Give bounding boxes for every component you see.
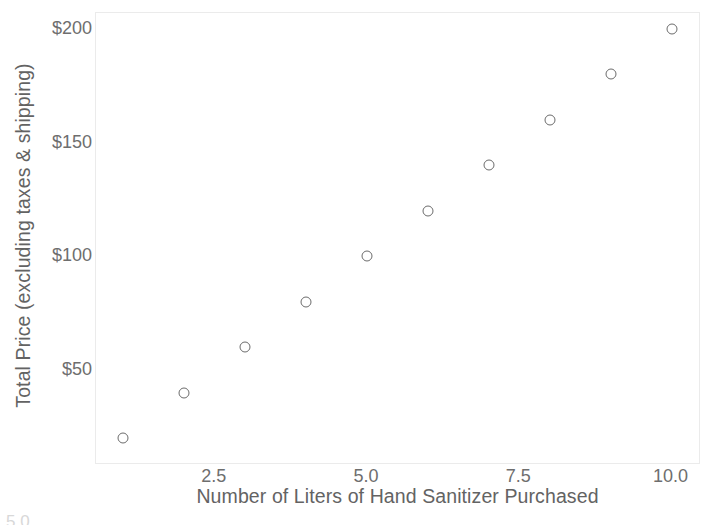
- x-tick-label: 10.0: [653, 466, 688, 487]
- clipped-text-artifact: 5.0: [6, 512, 30, 525]
- y-tick-label: $150: [0, 131, 92, 152]
- data-point: [483, 160, 494, 171]
- x-axis-label: Number of Liters of Hand Sanitizer Purch…: [95, 485, 700, 508]
- data-point: [240, 342, 251, 353]
- data-point: [118, 433, 129, 444]
- data-point: [605, 69, 616, 80]
- y-axis-tick-labels: $50$100$150$200: [0, 0, 92, 525]
- data-point: [301, 296, 312, 307]
- data-point: [362, 251, 373, 262]
- y-tick-label: $200: [0, 17, 92, 38]
- data-point: [666, 23, 677, 34]
- x-tick-label: 2.5: [201, 466, 226, 487]
- data-point: [544, 114, 555, 125]
- plot-area: [95, 12, 700, 464]
- y-tick-label: $100: [0, 245, 92, 266]
- x-tick-label: 7.5: [506, 466, 531, 487]
- data-point: [179, 387, 190, 398]
- data-point: [422, 205, 433, 216]
- y-tick-label: $50: [0, 358, 92, 379]
- x-tick-label: 5.0: [354, 466, 379, 487]
- scatter-chart-figure: Total Price (excluding taxes & shipping)…: [0, 0, 711, 525]
